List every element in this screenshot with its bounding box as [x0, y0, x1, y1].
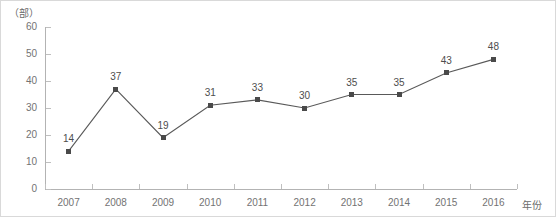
x-tick-mark: [517, 184, 518, 189]
x-category-label: 2014: [376, 197, 422, 208]
x-tick-mark: [234, 184, 235, 189]
y-tick-mark: [46, 108, 51, 109]
x-tick-mark: [423, 184, 424, 189]
data-point-value-label: 48: [478, 41, 508, 52]
y-tick-label: 20: [13, 129, 37, 140]
y-tick-mark: [46, 54, 51, 55]
y-tick-label: 30: [13, 102, 37, 113]
y-tick-label: 50: [13, 48, 37, 59]
x-category-label: 2016: [470, 197, 516, 208]
x-tick-mark: [139, 184, 140, 189]
data-point-value-label: 19: [148, 120, 178, 131]
x-category-label: 2009: [140, 197, 186, 208]
y-tick-mark: [46, 81, 51, 82]
x-axis-title: 年份: [522, 197, 542, 212]
data-point-marker: [66, 149, 71, 154]
x-tick-mark: [328, 184, 329, 189]
data-point-marker: [255, 97, 260, 102]
data-point-value-label: 31: [195, 87, 225, 98]
y-axis-unit-label: （部）: [9, 5, 39, 20]
y-tick-label: 40: [13, 75, 37, 86]
x-category-label: 2011: [234, 197, 280, 208]
x-category-label: 2013: [329, 197, 375, 208]
data-point-value-label: 35: [337, 77, 367, 88]
data-point-value-label: 14: [54, 133, 84, 144]
x-category-label: 2007: [46, 197, 92, 208]
x-axis-line: [45, 189, 517, 190]
data-point-value-label: 35: [384, 77, 414, 88]
x-tick-mark: [45, 184, 46, 189]
y-tick-mark: [46, 162, 51, 163]
y-tick-label: 60: [13, 21, 37, 32]
y-tick-label: 0: [13, 183, 37, 194]
x-tick-mark: [470, 184, 471, 189]
x-tick-mark: [281, 184, 282, 189]
data-point-marker: [113, 87, 118, 92]
data-point-marker: [491, 57, 496, 62]
x-category-label: 2010: [187, 197, 233, 208]
x-category-label: 2012: [282, 197, 328, 208]
data-point-marker: [302, 106, 307, 111]
x-tick-mark: [187, 184, 188, 189]
data-point-marker: [349, 92, 354, 97]
data-point-marker: [397, 92, 402, 97]
x-category-label: 2015: [423, 197, 469, 208]
data-point-value-label: 33: [242, 82, 272, 93]
data-point-value-label: 30: [290, 90, 320, 101]
x-category-label: 2008: [93, 197, 139, 208]
data-point-value-label: 43: [431, 55, 461, 66]
x-tick-mark: [375, 184, 376, 189]
data-point-marker: [444, 70, 449, 75]
data-point-marker: [208, 103, 213, 108]
series-line: [1, 1, 555, 216]
line-chart: （部） 0102030405060 14371931333035354348 2…: [0, 0, 556, 217]
y-tick-mark: [46, 27, 51, 28]
data-point-marker: [161, 135, 166, 140]
x-tick-mark: [92, 184, 93, 189]
y-tick-mark: [46, 135, 51, 136]
data-point-value-label: 37: [101, 71, 131, 82]
y-tick-label: 10: [13, 156, 37, 167]
y-tick-mark: [46, 189, 51, 190]
